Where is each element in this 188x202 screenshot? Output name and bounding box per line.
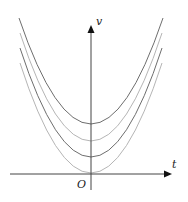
- velocity-time-chart: t v O: [0, 0, 188, 202]
- x-axis-label: t: [172, 158, 177, 171]
- x-axis-arrow-icon: [164, 171, 172, 178]
- origin-label: O: [77, 178, 86, 191]
- y-axis-arrow-icon: [88, 25, 95, 33]
- y-axis-label: v: [96, 15, 103, 28]
